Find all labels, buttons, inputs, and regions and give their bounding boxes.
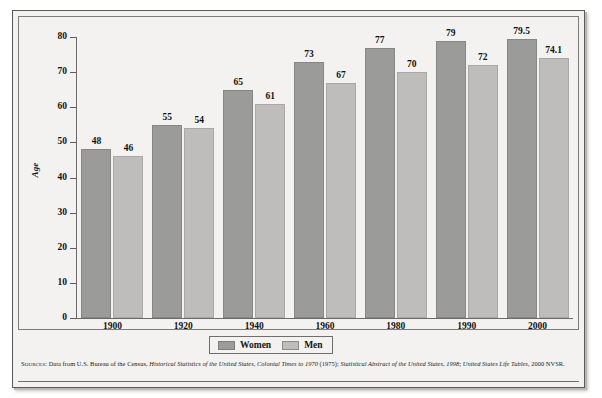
source-italic-1: Historical Statistics of the United Stat… (149, 360, 318, 367)
bar-value-women-1990: 79 (431, 29, 471, 39)
bar-value-men-1980: 70 (392, 60, 432, 70)
bar-value-women-1980: 77 (360, 36, 400, 46)
bar-men-1980[interactable] (397, 72, 427, 318)
bar-value-men-1940: 61 (250, 92, 290, 102)
bar-women-1980[interactable] (365, 48, 395, 318)
x-tick-label-1900: 1900 (77, 321, 147, 331)
bar-women-1940[interactable] (223, 90, 253, 318)
legend-label-men: Men (304, 340, 322, 350)
bar-value-men-1960: 67 (321, 71, 361, 81)
x-tick-label-1920: 1920 (148, 321, 218, 331)
bar-men-1920[interactable] (184, 128, 214, 318)
source-part-2: (1975); (318, 360, 340, 367)
legend-label-women: Women (240, 340, 271, 350)
chart-figure: Age 80706050403020100 484655546561736777… (12, 10, 585, 388)
bar-men-1960[interactable] (326, 83, 356, 318)
x-tick-label-1990: 1990 (432, 321, 502, 331)
bar-value-women-1940: 65 (218, 78, 258, 88)
source-label: Sources: (21, 360, 47, 367)
source-part-1: Data from U.S. Bureau of the Census, (47, 360, 149, 367)
x-tick-label-2000: 2000 (503, 321, 573, 331)
bar-men-1900[interactable] (113, 156, 143, 318)
x-tick-label-1940: 1940 (219, 321, 289, 331)
bar-men-2000[interactable] (539, 58, 569, 318)
source-italic-3: United States Life Tables (463, 360, 528, 367)
legend-swatch-men-icon (282, 341, 299, 350)
bar-women-2000[interactable] (507, 39, 537, 318)
bar-women-1900[interactable] (81, 149, 111, 318)
chart-legend: Women Men (209, 336, 333, 354)
source-divider (18, 381, 579, 382)
legend-swatch-women-icon (218, 341, 235, 350)
bar-value-men-1900: 46 (108, 144, 148, 154)
bar-value-men-2000: 74.1 (534, 46, 574, 56)
bar-value-men-1990: 72 (463, 53, 503, 63)
bar-women-1990[interactable] (436, 41, 466, 318)
source-part-4: , 2000 NVSR. (528, 360, 565, 367)
bar-women-1920[interactable] (152, 125, 182, 318)
bar-value-women-1960: 73 (289, 50, 329, 60)
bar-value-men-1920: 54 (179, 116, 219, 126)
x-tick-label-1980: 1980 (361, 321, 431, 331)
source-note: Sources: Data from U.S. Bureau of the Ce… (21, 359, 576, 369)
plot-area: Age 80706050403020100 484655546561736777… (18, 16, 579, 330)
bar-women-1960[interactable] (294, 62, 324, 318)
source-italic-2: Statistical Abstract of the United State… (340, 360, 459, 367)
bar-men-1940[interactable] (255, 104, 285, 318)
bar-men-1990[interactable] (468, 65, 498, 318)
bar-value-women-2000: 79.5 (502, 27, 542, 37)
bars-layer: 48465554656173677770797279.574.1 (19, 17, 578, 329)
legend-item-women[interactable]: Women (218, 340, 271, 350)
x-tick-label-1960: 1960 (290, 321, 360, 331)
legend-item-men[interactable]: Men (282, 340, 322, 350)
